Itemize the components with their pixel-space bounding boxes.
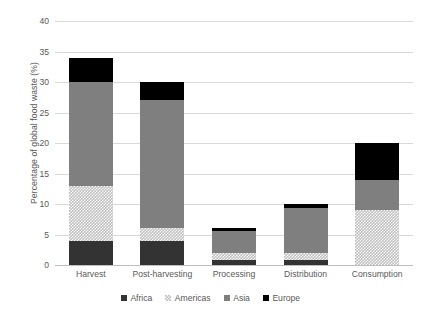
bar-segment-americas[interactable]: [140, 228, 184, 240]
x-axis-line: [55, 265, 413, 266]
bars-layer: [55, 21, 413, 265]
bar-segment-asia[interactable]: [69, 82, 113, 186]
x-tick-label: Distribution: [270, 269, 342, 279]
legend-item[interactable]: Europe: [263, 293, 300, 303]
bar-segment-americas[interactable]: [355, 210, 399, 265]
x-tick-label: Harvest: [55, 269, 127, 279]
bar-segment-africa[interactable]: [69, 241, 113, 265]
legend-item[interactable]: Africa: [121, 293, 152, 303]
bar-group[interactable]: [198, 21, 270, 265]
x-tick-label: Post-harvesting: [127, 269, 199, 279]
y-tick-label: 10: [39, 199, 49, 209]
stacked-bar-chart: Percentage of global food waste (%) 0510…: [0, 0, 421, 317]
legend-label: Americas: [175, 293, 211, 303]
y-tick-label: 0: [44, 260, 49, 270]
bar-segment-americas[interactable]: [69, 186, 113, 241]
legend-swatch-americas: [165, 295, 171, 301]
legend-swatch-europe: [263, 295, 269, 301]
bar-stack[interactable]: [212, 228, 256, 265]
legend-swatch-africa: [121, 295, 127, 301]
bar-stack[interactable]: [355, 143, 399, 265]
bar-segment-asia[interactable]: [140, 100, 184, 228]
plot-area: 0510152025303540: [55, 21, 413, 265]
y-tick-label: 20: [39, 138, 49, 148]
legend-item[interactable]: Americas: [165, 293, 210, 303]
y-tick-label: 40: [39, 16, 49, 26]
bar-group[interactable]: [127, 21, 199, 265]
x-tick-label: Processing: [198, 269, 270, 279]
legend-label: Africa: [130, 293, 152, 303]
x-tick-label: Consumption: [341, 269, 413, 279]
legend-swatch-asia: [224, 295, 230, 301]
y-tick-label: 35: [39, 47, 49, 57]
legend-item[interactable]: Asia: [224, 293, 250, 303]
bar-segment-africa[interactable]: [140, 241, 184, 265]
y-tick-label: 25: [39, 108, 49, 118]
y-tick-label: 5: [44, 230, 49, 240]
bar-stack[interactable]: [284, 204, 328, 265]
bar-segment-americas[interactable]: [212, 253, 256, 260]
bar-group[interactable]: [341, 21, 413, 265]
bar-segment-americas[interactable]: [284, 253, 328, 260]
bar-stack[interactable]: [140, 82, 184, 265]
bar-stack[interactable]: [69, 58, 113, 265]
bar-segment-asia[interactable]: [284, 208, 328, 253]
legend-label: Europe: [272, 293, 300, 303]
bar-segment-asia[interactable]: [355, 180, 399, 211]
bar-segment-asia[interactable]: [212, 231, 256, 252]
bar-group[interactable]: [55, 21, 127, 265]
bar-segment-europe[interactable]: [355, 143, 399, 180]
y-tick-label: 15: [39, 169, 49, 179]
y-axis-title: Percentage of global food waste (%): [29, 13, 39, 253]
bar-segment-europe[interactable]: [140, 82, 184, 100]
bar-group[interactable]: [270, 21, 342, 265]
bar-segment-europe[interactable]: [69, 58, 113, 82]
x-axis-labels: HarvestPost-harvestingProcessingDistribu…: [55, 269, 413, 279]
chart-legend: AfricaAmericasAsiaEurope: [0, 293, 421, 303]
y-tick-label: 30: [39, 77, 49, 87]
legend-label: Asia: [233, 293, 250, 303]
